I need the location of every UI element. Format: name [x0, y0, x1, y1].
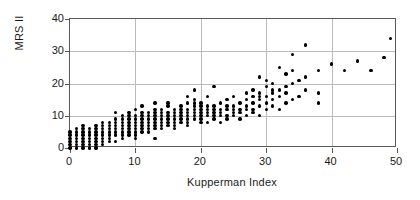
x-tick-label: 0 [54, 156, 84, 167]
x-tick-label: 10 [119, 156, 149, 167]
x-tick-label: 50 [381, 156, 411, 167]
x-tick-label: 40 [316, 156, 346, 167]
x-axis-tick-labels: 01020304050 [0, 0, 420, 200]
x-tick-label: 20 [185, 156, 215, 167]
x-tick-label: 30 [250, 156, 280, 167]
x-axis-title: Kupperman Index [68, 176, 396, 188]
scatter-plot-figure: MRS II 010203040 01020304050 Kupperman I… [0, 0, 420, 200]
